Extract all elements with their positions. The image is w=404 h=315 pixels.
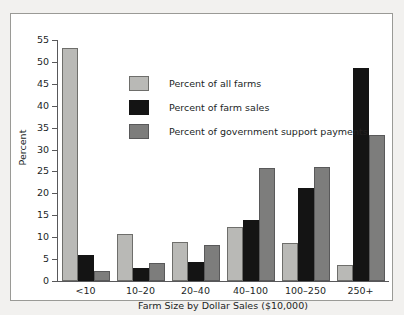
bar-percent-of-government-support-payments-2 — [204, 245, 220, 281]
bar-percent-of-all-farms-4 — [282, 243, 298, 281]
legend-item: Percent of farm sales — [129, 95, 368, 119]
y-axis-tick-label: 40 — [11, 101, 49, 111]
x-axis-title: Farm Size by Dollar Sales ($10,000) — [58, 300, 388, 311]
bar-percent-of-farm-sales-3 — [243, 220, 259, 281]
y-axis-tick — [52, 237, 57, 238]
bar-percent-of-government-support-payments-0 — [94, 271, 110, 281]
bar-percent-of-government-support-payments-5 — [369, 135, 385, 281]
y-axis-tick-label: 10 — [11, 232, 49, 242]
legend-swatch-icon — [129, 124, 149, 139]
legend-label: Percent of government support payments — [169, 126, 368, 137]
y-axis-tick — [52, 193, 57, 194]
y-axis-tick — [52, 281, 57, 282]
y-axis-tick — [52, 259, 57, 260]
y-axis-tick — [52, 215, 57, 216]
y-axis-tick-label: 45 — [11, 79, 49, 89]
bar-percent-of-farm-sales-2 — [188, 262, 204, 281]
x-axis-tick-label: 100–250 — [278, 285, 333, 296]
y-axis-tick — [52, 150, 57, 151]
bar-percent-of-farm-sales-0 — [78, 255, 94, 281]
bar-percent-of-government-support-payments-4 — [314, 167, 330, 281]
y-axis-tick — [52, 84, 57, 85]
y-axis-tick-label: 30 — [11, 145, 49, 155]
y-axis-tick-label: 50 — [11, 57, 49, 67]
y-axis-tick — [52, 40, 57, 41]
y-axis-tick-label: 0 — [11, 276, 49, 286]
x-axis-tick-label: 10–20 — [113, 285, 168, 296]
x-axis-tick-label: <10 — [58, 285, 113, 296]
bar-percent-of-all-farms-0 — [62, 48, 78, 281]
bar-percent-of-government-support-payments-1 — [149, 263, 165, 281]
legend-label: Percent of farm sales — [169, 102, 269, 113]
y-axis-tick — [52, 62, 57, 63]
y-axis-tick-label: 25 — [11, 166, 49, 176]
x-axis-tick-label: 250+ — [333, 285, 388, 296]
y-axis-tick — [52, 171, 57, 172]
chart-legend: Percent of all farmsPercent of farm sale… — [129, 71, 368, 143]
figure-frame: Percent 0510152025303540455055 <1010–202… — [10, 13, 393, 301]
y-axis-tick-label: 35 — [11, 123, 49, 133]
y-axis-tick-label: 20 — [11, 188, 49, 198]
y-axis-tick — [52, 128, 57, 129]
x-axis-tick-label: 40–100 — [223, 285, 278, 296]
bar-percent-of-all-farms-3 — [227, 227, 243, 281]
y-axis-tick — [52, 106, 57, 107]
bar-percent-of-all-farms-1 — [117, 234, 133, 281]
legend-swatch-icon — [129, 76, 149, 91]
legend-swatch-icon — [129, 100, 149, 115]
legend-item: Percent of government support payments — [129, 119, 368, 143]
bar-percent-of-all-farms-5 — [337, 265, 353, 281]
y-axis-tick-label: 55 — [11, 35, 49, 45]
chart-page: Percent 0510152025303540455055 <1010–202… — [0, 0, 404, 315]
bar-percent-of-all-farms-2 — [172, 242, 188, 281]
bar-percent-of-farm-sales-4 — [298, 188, 314, 281]
bar-percent-of-farm-sales-1 — [133, 268, 149, 281]
x-axis-tick-label: 20–40 — [168, 285, 223, 296]
legend-item: Percent of all farms — [129, 71, 368, 95]
y-axis-tick-label: 5 — [11, 254, 49, 264]
y-axis-tick-label: 15 — [11, 210, 49, 220]
legend-label: Percent of all farms — [169, 78, 261, 89]
bar-percent-of-government-support-payments-3 — [259, 168, 275, 281]
